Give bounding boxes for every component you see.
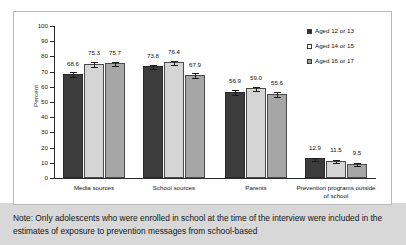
bar — [63, 74, 83, 178]
error-bar-cap-bottom — [171, 65, 178, 66]
error-bar-cap-top — [70, 72, 77, 73]
x-axis-category-label: Prevention programs outsideof school — [288, 184, 384, 201]
error-bar-cap-top — [232, 90, 239, 91]
y-axis-tick-label: 70 — [41, 68, 48, 74]
legend-item[interactable]: Aged 12 or 13 — [307, 25, 393, 37]
y-axis-tick-label: 10 — [41, 160, 48, 166]
y-axis-tick-mark — [50, 87, 54, 88]
y-axis-tick-mark — [50, 26, 54, 27]
y-axis-tick-mark — [50, 72, 54, 73]
error-bar-cap-top — [192, 73, 199, 74]
error-bar-cap-bottom — [312, 161, 319, 162]
bar — [185, 75, 205, 178]
y-axis-title: Percent — [32, 85, 39, 107]
bar-value-label: 67.9 — [181, 62, 209, 68]
bar-group: 56.959.055.6 — [225, 26, 287, 178]
bar — [143, 66, 163, 178]
bar — [305, 158, 325, 178]
y-axis-tick-label: 90 — [41, 38, 48, 44]
category-label-line: of school — [288, 192, 384, 200]
bar — [347, 164, 367, 178]
legend-label: Aged 14 or 15 — [315, 43, 354, 49]
error-bar-cap-top — [312, 158, 319, 159]
legend-item[interactable]: Aged 14 or 15 — [307, 40, 393, 52]
legend-item[interactable]: Aged 16 or 17 — [307, 55, 393, 67]
bar-value-label: 9.5 — [343, 150, 371, 156]
y-axis-tick-label: 0 — [45, 175, 48, 181]
error-bar-cap-bottom — [70, 77, 77, 78]
bar — [84, 64, 104, 178]
error-bar-cap-bottom — [354, 166, 361, 167]
bar-value-label: 55.6 — [263, 80, 291, 86]
error-bar-cap-top — [253, 87, 260, 88]
legend-swatch-icon — [307, 29, 312, 34]
y-axis-tick-label: 50 — [41, 99, 48, 105]
y-axis-tick-mark — [50, 163, 54, 164]
chart-panel: Percent 1009080706050403020100 68.675.37… — [13, 11, 392, 205]
y-axis-tick-label: 100 — [38, 23, 48, 29]
legend-swatch-icon — [307, 59, 312, 64]
bar-group: 68.675.375.7 — [63, 26, 125, 178]
bar — [326, 161, 346, 178]
error-bar-cap-top — [150, 65, 157, 66]
chart-legend: Aged 12 or 13Aged 14 or 15Aged 16 or 17 — [307, 25, 393, 70]
figure-container: Percent 1009080706050403020100 68.675.37… — [0, 0, 406, 245]
y-axis-tick-mark — [50, 56, 54, 57]
y-axis-tick-mark — [50, 41, 54, 42]
category-label-line: Prevention programs outside — [288, 184, 384, 192]
y-axis-tick-mark — [50, 148, 54, 149]
y-axis-tick-mark — [50, 132, 54, 133]
error-bar-cap-top — [354, 163, 361, 164]
error-bar-cap-bottom — [192, 78, 199, 79]
error-bar-cap-bottom — [253, 91, 260, 92]
legend-label: Aged 16 or 17 — [315, 58, 354, 64]
y-axis-tick-mark — [50, 102, 54, 103]
y-axis-tick-label: 30 — [41, 129, 48, 135]
legend-label: Aged 12 or 13 — [315, 28, 354, 34]
error-bar-cap-bottom — [333, 163, 340, 164]
bar — [164, 62, 184, 178]
x-axis-line — [54, 178, 376, 179]
bar-value-label: 76.4 — [160, 49, 188, 55]
error-bar-cap-bottom — [232, 95, 239, 96]
y-axis-tick-label: 20 — [41, 144, 48, 150]
bar-value-label: 68.6 — [59, 61, 87, 67]
y-axis-tick-mark — [50, 117, 54, 118]
error-bar-cap-bottom — [91, 67, 98, 68]
bar — [105, 63, 125, 178]
error-bar-cap-bottom — [112, 66, 119, 67]
error-bar-cap-top — [112, 62, 119, 63]
y-axis-tick-label: 40 — [41, 114, 48, 120]
bar — [267, 94, 287, 179]
error-bar-cap-top — [274, 92, 281, 93]
error-bar-cap-top — [91, 62, 98, 63]
y-axis-tick-mark — [50, 178, 54, 179]
error-bar-cap-bottom — [274, 97, 281, 98]
error-bar-cap-bottom — [150, 69, 157, 70]
y-axis-tick-label: 60 — [41, 84, 48, 90]
figure-note: Note: Only adolescents who were enrolled… — [13, 212, 393, 238]
legend-swatch-icon — [307, 44, 312, 49]
bar-group: 73.876.467.9 — [143, 26, 205, 178]
bar-value-label: 75.7 — [101, 50, 129, 56]
y-axis-line — [54, 26, 55, 178]
y-axis-tick-label: 80 — [41, 53, 48, 59]
error-bar-cap-top — [333, 160, 340, 161]
bar — [246, 88, 266, 178]
bar — [225, 92, 245, 178]
error-bar-cap-top — [171, 61, 178, 62]
